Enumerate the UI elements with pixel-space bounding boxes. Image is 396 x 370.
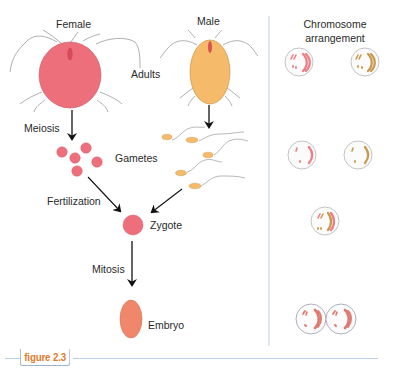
label-female: Female xyxy=(56,18,91,30)
chromosome-cell-zygote xyxy=(311,207,339,235)
figure-label: figure 2.3 xyxy=(20,349,70,366)
chromosome-cell-embryo-right xyxy=(326,304,356,334)
life-cycle-diagram xyxy=(0,0,396,370)
figure-caption: figure 2.3 xyxy=(0,349,396,369)
chromosome-header-line1: Chromosome xyxy=(290,17,380,31)
label-adults: Adults xyxy=(131,68,160,80)
female-adult-icon xyxy=(10,30,140,112)
chromosome-cell-female-adult xyxy=(285,48,313,76)
label-zygote: Zygote xyxy=(150,219,182,231)
label-mitosis: Mitosis xyxy=(92,263,125,275)
caption-rule-left xyxy=(5,358,21,359)
chromosome-cell-male-adult xyxy=(351,48,379,76)
chromosome-panel-header: Chromosome arrangement xyxy=(290,17,380,45)
label-gametes: Gametes xyxy=(115,152,158,164)
chromosome-cell-egg xyxy=(288,141,316,169)
fertilization-arrow-right xyxy=(152,189,182,212)
label-meiosis: Meiosis xyxy=(24,122,60,134)
chromosome-header-line2: arrangement xyxy=(290,31,380,45)
caption-rule-right xyxy=(73,358,378,359)
egg-gametes-icon xyxy=(57,143,103,177)
label-male: Male xyxy=(197,15,220,27)
label-fertilization: Fertilization xyxy=(47,195,101,207)
chromosome-cell-embryo-left xyxy=(296,304,326,334)
chromosome-cell-sperm xyxy=(344,141,372,169)
sperm-gametes-icon xyxy=(162,127,248,189)
label-embryo: Embryo xyxy=(148,319,184,331)
zygote-icon xyxy=(123,215,143,235)
male-adult-icon xyxy=(160,30,258,106)
embryo-icon xyxy=(120,300,142,338)
